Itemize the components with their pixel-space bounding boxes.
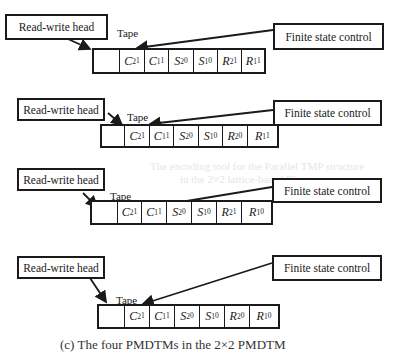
finite-state-control-box: Finite state control xyxy=(272,178,382,203)
tape-cell: R11 xyxy=(247,126,277,146)
tape-cell: S20 xyxy=(174,306,199,327)
tape-cell-blank xyxy=(102,126,124,146)
read-write-head-box: Read-write head xyxy=(5,14,108,40)
finite-state-control-box: Finite state control xyxy=(273,23,384,50)
tape-cell: R21 xyxy=(217,50,241,72)
tape-cell: S20 xyxy=(166,202,191,223)
tape-cell: C11 xyxy=(144,50,168,72)
tape-label: Tape xyxy=(127,111,148,123)
tape-cell: R21 xyxy=(216,202,241,223)
tape: C21 C11 S20 S10 R21 R10 xyxy=(90,200,273,225)
fsc-arrow xyxy=(150,110,273,124)
figure-caption: (c) The four PMDTMs in the 2×2 PMDTM xyxy=(60,337,286,353)
tape-cell: S20 xyxy=(168,50,192,72)
tape-cell: C11 xyxy=(149,126,173,146)
finite-state-control-box: Finite state control xyxy=(273,100,382,126)
read-write-head-box: Read-write head xyxy=(17,168,105,191)
fsc-arrow xyxy=(143,263,272,304)
fsc-arrow xyxy=(137,30,273,48)
tape-cell: S10 xyxy=(199,306,224,327)
read-write-head-box: Read-write head xyxy=(17,256,105,279)
tape-cell: S10 xyxy=(193,50,217,72)
tape-cell: S20 xyxy=(173,126,197,146)
background-text-line: The encoding tool for the Parallel TMP s… xyxy=(150,160,364,172)
tape-label: Tape xyxy=(117,27,138,39)
tape-cell: C21 xyxy=(119,50,143,72)
tape-cell: C21 xyxy=(117,202,141,223)
tape-cell: R11 xyxy=(241,50,263,72)
tape-cell-blank xyxy=(92,202,117,223)
finite-state-control-box: Finite state control xyxy=(272,255,382,281)
tape-cell: R20 xyxy=(224,306,249,327)
tape-cell: R10 xyxy=(241,202,271,223)
tape: C21 C11 S20 S10 R20 R10 xyxy=(97,304,280,329)
tape-cell: S10 xyxy=(198,126,222,146)
rw-head-arrow xyxy=(90,278,106,302)
tape: C21 C11 S20 S10 R21 R11 xyxy=(92,48,266,74)
tape-cell: C21 xyxy=(124,306,149,327)
read-write-head-box: Read-write head xyxy=(17,98,105,121)
tape: C21 C11 S20 S10 R20 R11 xyxy=(100,124,279,148)
tape-cell: R10 xyxy=(249,306,278,327)
tape-cell-blank xyxy=(99,306,124,327)
tape-cell: C11 xyxy=(141,202,166,223)
rw-head-arrow xyxy=(68,39,90,49)
tape-cell: S10 xyxy=(191,202,216,223)
tape-cell: C11 xyxy=(149,306,174,327)
tape-cell: C21 xyxy=(124,126,148,146)
tape-cell: R20 xyxy=(222,126,246,146)
tape-cell-blank xyxy=(94,50,119,72)
